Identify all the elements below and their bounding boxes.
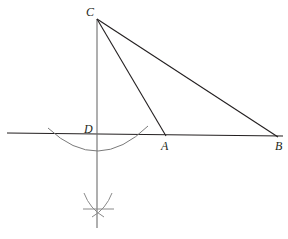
geometry-figure-canvas: C D A B [0, 0, 288, 239]
point-label-A: A [160, 139, 169, 153]
geometry-figure-svg: C D A B [0, 0, 288, 239]
point-label-D: D [83, 122, 93, 136]
lower-compass-arc-right [92, 193, 112, 217]
point-label-B: B [275, 139, 283, 153]
lower-compass-arc-left [84, 193, 104, 217]
baseline-AB-line [7, 133, 283, 136]
upper-compass-arc [48, 126, 148, 151]
point-label-C: C [86, 5, 95, 19]
segment-CB-line [97, 19, 278, 137]
segment-CA-line [97, 19, 166, 136]
